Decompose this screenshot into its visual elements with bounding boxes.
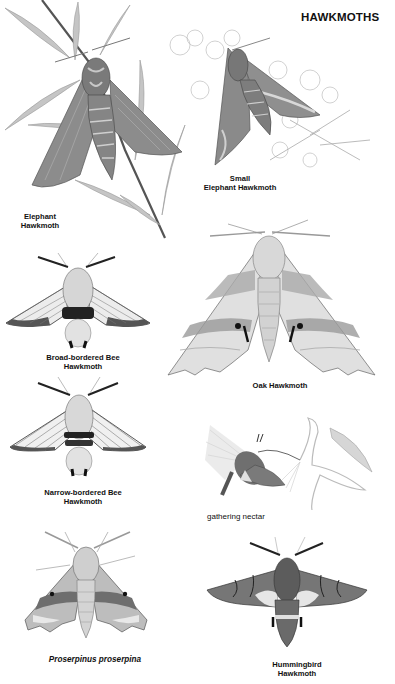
caption-elephant-hawkmoth: Elephant Hawkmoth: [20, 213, 60, 230]
caption-broad-bordered-bee-hawkmoth: Broad-bordered Bee Hawkmoth: [38, 354, 128, 371]
caption-narrow-bordered-bee-hawkmoth: Narrow-bordered Bee Hawkmoth: [34, 489, 132, 506]
caption-small-elephant-hawkmoth: Small Elephant Hawkmoth: [200, 175, 280, 192]
caption-line: Hawkmoth: [266, 670, 328, 679]
caption-line: Hawkmoth: [38, 363, 128, 372]
caption-line: Elephant Hawkmoth: [200, 184, 280, 193]
caption-line: Oak Hawkmoth: [244, 382, 316, 391]
caption-line: Hawkmoth: [34, 498, 132, 507]
caption-oak-hawkmoth: Oak Hawkmoth: [244, 382, 316, 391]
caption-line: Hawkmoth: [20, 222, 60, 231]
caption-gathering-nectar: gathering nectar: [207, 512, 265, 521]
caption-proserpinus-proserpina: Proserpinus proserpina: [40, 655, 150, 664]
caption-hummingbird-hawkmoth: Hummingbird Hawkmoth: [266, 661, 328, 678]
